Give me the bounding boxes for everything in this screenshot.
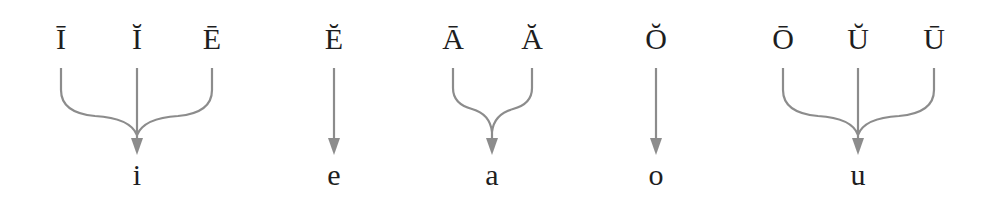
arrowhead-icon: [650, 138, 662, 155]
source-short-u: Ŭ: [847, 24, 869, 54]
source-short-e: Ĕ: [325, 24, 343, 54]
source-long-o: Ō: [772, 24, 794, 54]
source-short-o: Ŏ: [645, 24, 667, 54]
target-e: e: [327, 160, 340, 190]
arrowhead-icon: [852, 138, 864, 155]
arrowhead-icon: [486, 138, 498, 155]
arrow-long-a: [453, 68, 492, 140]
arrow-long-i: [61, 68, 137, 135]
source-long-e: Ē: [203, 24, 221, 54]
source-short-a: Ă: [521, 24, 543, 54]
source-long-a: Ā: [442, 24, 464, 54]
arrow-long-u: [858, 68, 934, 135]
target-a: a: [485, 160, 498, 190]
arrow-short-a: [492, 68, 532, 132]
target-u: u: [851, 160, 866, 190]
vowel-merger-diagram: Ī Ĭ Ē Ĕ Ā Ă Ŏ Ō Ŭ Ū i e a o u: [0, 0, 992, 202]
arrow-long-e: [137, 68, 212, 135]
arrow-long-o: [783, 68, 858, 135]
arrow-group-a: [453, 68, 532, 155]
source-short-i: Ĭ: [132, 24, 142, 54]
arrowhead-icon: [328, 138, 340, 155]
arrow-group-e: [328, 68, 340, 155]
target-i: i: [133, 160, 141, 190]
arrowhead-icon: [131, 138, 143, 155]
source-long-i: Ī: [56, 24, 66, 54]
arrow-group-u: [783, 68, 934, 155]
source-long-u: Ū: [923, 24, 945, 54]
arrow-group-i: [61, 68, 212, 155]
target-o: o: [649, 160, 664, 190]
arrow-group-o: [650, 68, 662, 155]
